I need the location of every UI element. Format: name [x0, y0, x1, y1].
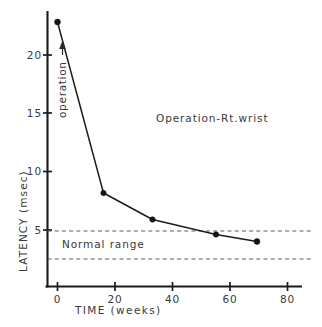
y-axis-title: LATENCY (msec)	[18, 170, 29, 272]
data-point-week-55	[213, 232, 218, 237]
data-point-week-0	[55, 19, 61, 25]
subject-annotation-label: Operation-Rt.wrist	[156, 113, 268, 124]
latency-recovery-chart: 20 15 10 5 0 20 40 60 80 TIME (weeks) LA…	[0, 0, 322, 327]
x-tick-label-40: 40	[158, 294, 188, 305]
latency-series-line	[58, 22, 258, 242]
chart-canvas	[0, 0, 322, 327]
operation-annotation-label: operation	[57, 61, 68, 118]
operation-arrow-icon	[59, 41, 66, 50]
y-tick-label-20: 20	[16, 50, 42, 61]
x-tick-label-20: 20	[100, 294, 130, 305]
data-point-week-33	[150, 217, 155, 222]
normal-range-label: Normal range	[62, 239, 145, 250]
x-tick-label-0: 0	[43, 294, 73, 305]
x-axis-title: TIME (weeks)	[75, 305, 162, 316]
data-point-week-16	[101, 190, 106, 195]
x-tick-label-60: 60	[215, 294, 245, 305]
y-tick-label-15: 15	[16, 108, 42, 119]
data-point-week-69	[254, 239, 260, 245]
x-tick-label-80: 80	[273, 294, 303, 305]
